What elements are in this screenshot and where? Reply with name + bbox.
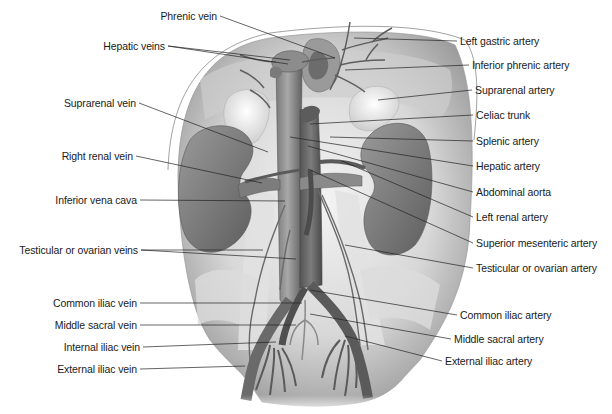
label-superior-mesenteric-artery: Superior mesenteric artery bbox=[476, 237, 597, 249]
label-hepatic-artery: Hepatic artery bbox=[476, 160, 540, 172]
label-middle-sacral-artery: Middle sacral artery bbox=[454, 333, 544, 345]
label-celiac-trunk: Celiac trunk bbox=[476, 109, 530, 121]
label-suprarenal-vein: Suprarenal vein bbox=[64, 97, 136, 109]
label-abdominal-aorta: Abdominal aorta bbox=[476, 186, 551, 198]
label-external-iliac-vein: External iliac vein bbox=[57, 363, 137, 375]
right-iliac-fold bbox=[195, 270, 258, 330]
label-inferior-phrenic-artery: Inferior phrenic artery bbox=[472, 59, 570, 71]
label-internal-iliac-vein: Internal iliac vein bbox=[64, 341, 140, 353]
label-phrenic-vein: Phrenic vein bbox=[160, 10, 217, 22]
label-splenic-artery: Splenic artery bbox=[476, 135, 539, 147]
label-common-iliac-vein: Common iliac vein bbox=[53, 297, 137, 309]
label-common-iliac-artery: Common iliac artery bbox=[460, 309, 551, 321]
label-middle-sacral-vein: Middle sacral vein bbox=[55, 319, 137, 331]
label-testicular-or-ovarian-veins: Testicular or ovarian veins bbox=[19, 244, 138, 256]
anatomy-figure: Phrenic veinHepatic veinsSuprarenal vein… bbox=[0, 0, 612, 414]
label-suprarenal-artery: Suprarenal artery bbox=[475, 84, 554, 96]
label-hepatic-veins: Hepatic veins bbox=[103, 40, 165, 52]
label-left-renal-artery: Left renal artery bbox=[476, 211, 548, 223]
label-right-renal-vein: Right renal vein bbox=[62, 150, 133, 162]
label-testicular-or-ovarian-artery: Testicular or ovarian artery bbox=[476, 262, 597, 274]
label-inferior-vena-cava: Inferior vena cava bbox=[55, 194, 137, 206]
label-left-gastric-artery: Left gastric artery bbox=[460, 35, 539, 47]
label-external-iliac-artery: External iliac artery bbox=[445, 355, 532, 367]
leader-external-iliac-vein bbox=[140, 366, 245, 369]
